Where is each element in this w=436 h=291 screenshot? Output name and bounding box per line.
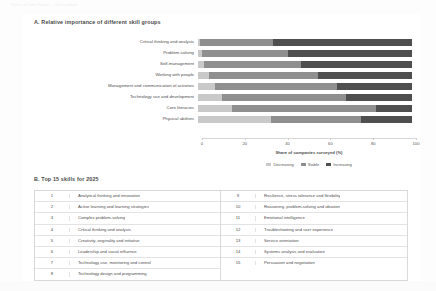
axis-tick xyxy=(373,138,374,140)
table-row: 6Leadership and social influence xyxy=(35,247,220,258)
bar-category-label: Technology use and development xyxy=(22,95,198,99)
skill-name: Complex problem-solving xyxy=(70,216,125,220)
skill-name: Resilience, stress tolerance and flexibi… xyxy=(256,194,340,198)
skill-name: Active learning and learning strategies xyxy=(70,205,149,209)
x-axis: 020406080100 xyxy=(202,138,416,139)
skill-rank: 3 xyxy=(35,216,70,220)
bar-segment-decreasing xyxy=(198,72,209,79)
bar-segment-stable xyxy=(202,50,288,57)
table-row: 10Reasoning, problem-solving and ideatio… xyxy=(221,202,407,213)
bar-segment-increasing xyxy=(346,94,412,101)
axis-tick xyxy=(330,138,331,140)
skill-rank: 15 xyxy=(221,261,256,265)
bar-segment-stable xyxy=(271,116,361,123)
bar-segment-stable xyxy=(204,61,300,68)
legend-item-increasing: Increasing xyxy=(326,162,352,167)
axis-tick xyxy=(245,138,246,140)
page-canvas: Future of Jobs Report — skills outlook A… xyxy=(0,0,436,291)
table-row: 14Systems analysis and evaluation xyxy=(221,247,407,258)
legend-swatch-stable-icon xyxy=(301,163,306,166)
bar-category-label: Problem-solving xyxy=(22,51,198,55)
table-row: 9Resilience, stress tolerance and flexib… xyxy=(221,191,407,202)
bar-category-label: Management and communication of activiti… xyxy=(22,84,198,88)
axis-tick-label: 60 xyxy=(328,141,333,146)
skill-name: Technology design and programming xyxy=(70,272,147,276)
stacked-bar xyxy=(198,61,412,68)
table-row: 1Analytical thinking and innovation xyxy=(35,191,220,202)
stacked-bar xyxy=(198,83,412,90)
bar-row: Core literacies xyxy=(22,104,420,113)
skill-rank: 1 xyxy=(35,194,70,198)
axis-line xyxy=(202,138,416,139)
bar-segment-stable xyxy=(232,105,375,112)
bar-segment-decreasing xyxy=(198,83,215,90)
skill-name: Troubleshooting and user experience xyxy=(256,228,333,232)
skill-rank: 11 xyxy=(221,216,256,220)
axis-tick-label: 80 xyxy=(371,141,376,146)
skill-name: Persuasion and negotiation xyxy=(256,261,315,265)
legend-label-increasing: Increasing xyxy=(333,162,351,167)
header-strip: Future of Jobs Report — skills outlook xyxy=(0,0,436,11)
skill-name: Technology use, monitoring and control xyxy=(70,261,151,265)
bar-segment-increasing xyxy=(301,61,412,68)
bar-row: Critical thinking and analysis xyxy=(22,38,420,47)
bar-segment-increasing xyxy=(337,83,412,90)
panel-b-title: B. Top 15 skills for 2025 xyxy=(34,176,99,182)
legend-label-decreasing: Decreasing xyxy=(273,162,293,167)
bar-row: Management and communication of activiti… xyxy=(22,82,420,91)
skills-table: 1Analytical thinking and innovation2Acti… xyxy=(34,190,408,281)
figure-panel: A. Relative importance of different skil… xyxy=(22,14,420,282)
bar-rows: Critical thinking and analysisProblem-so… xyxy=(22,38,420,126)
table-row: 3Complex problem-solving xyxy=(35,213,220,224)
table-row: 13Service orientation xyxy=(221,236,407,247)
bar-category-label: Self-management xyxy=(22,62,198,66)
skills-table-column-left: 1Analytical thinking and innovation2Acti… xyxy=(35,191,221,280)
axis-tick xyxy=(416,138,417,140)
skill-rank: 13 xyxy=(221,239,256,243)
stacked-bar xyxy=(198,94,412,101)
bar-row: Self-management xyxy=(22,60,420,69)
legend-item-decreasing: Decreasing xyxy=(266,162,293,167)
table-row: 11Emotional intelligence xyxy=(221,213,407,224)
skill-rank: 4 xyxy=(35,228,70,232)
skill-name: Reasoning, problem-solving and ideation xyxy=(256,205,340,209)
stacked-bar-chart: Critical thinking and analysisProblem-so… xyxy=(22,38,420,166)
bar-row: Working with people xyxy=(22,71,420,80)
axis-tick-label: 0 xyxy=(201,141,203,146)
legend-item-stable: Stable xyxy=(301,162,320,167)
bar-segment-decreasing xyxy=(198,94,222,101)
axis-tick xyxy=(202,138,203,140)
legend-swatch-decreasing-icon xyxy=(266,163,271,166)
skill-rank: 9 xyxy=(221,194,256,198)
bar-category-label: Working with people xyxy=(22,73,198,77)
bar-segment-decreasing xyxy=(198,105,232,112)
bar-category-label: Critical thinking and analysis xyxy=(22,40,198,44)
table-row: 15Persuasion and negotiation xyxy=(221,258,407,268)
skill-rank: 10 xyxy=(221,205,256,209)
skill-rank: 2 xyxy=(35,205,70,209)
table-row: 7Technology use, monitoring and control xyxy=(35,258,220,269)
bar-category-label: Physical abilities xyxy=(22,117,198,121)
bar-segment-stable xyxy=(215,83,337,90)
table-row: 12Troubleshooting and user experience xyxy=(221,225,407,236)
table-row: 5Creativity, originality and initiative xyxy=(35,236,220,247)
skill-rank: 6 xyxy=(35,250,70,254)
bar-segment-increasing xyxy=(361,116,412,123)
skill-name: Creativity, originality and initiative xyxy=(70,239,140,243)
bar-row: Technology use and development xyxy=(22,93,420,102)
legend-label-stable: Stable xyxy=(308,162,319,167)
skill-name: Emotional intelligence xyxy=(256,216,305,220)
skill-name: Analytical thinking and innovation xyxy=(70,194,140,198)
skill-rank: 12 xyxy=(221,228,256,232)
bar-segment-increasing xyxy=(376,105,412,112)
skill-rank: 7 xyxy=(35,261,70,265)
skill-rank: 14 xyxy=(221,250,256,254)
chart-legend: Decreasing Stable Increasing xyxy=(202,162,416,167)
bar-row: Problem-solving xyxy=(22,49,420,58)
bar-category-label: Core literacies xyxy=(22,106,198,110)
bar-segment-stable xyxy=(222,94,346,101)
skill-name: Systems analysis and evaluation xyxy=(256,250,325,254)
bar-row: Physical abilities xyxy=(22,115,420,124)
bar-segment-increasing xyxy=(273,39,412,46)
stacked-bar xyxy=(198,50,412,57)
